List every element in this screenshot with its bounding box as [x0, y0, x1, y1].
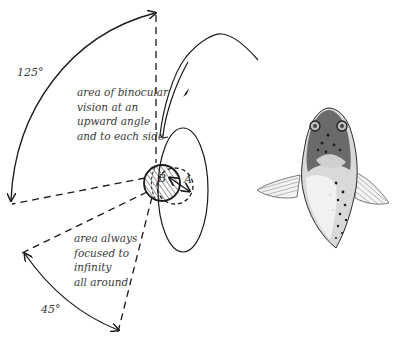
upper-left-ray — [12, 178, 145, 204]
angle-label-45: 45° — [41, 303, 61, 318]
binocular-line-4: and to each side — [77, 129, 168, 144]
angle-label-125: 125° — [17, 66, 44, 81]
binocular-line-3: upward angle — [77, 114, 168, 129]
binocular-region-label: area of binocular vision at an upward an… — [77, 85, 168, 143]
left-pectoral-fin — [257, 175, 300, 198]
infinity-line-3: infinity — [74, 260, 137, 275]
eye-label-b: B — [158, 172, 166, 187]
infinity-line-4: all around — [74, 275, 137, 290]
infinity-line-1: area always — [74, 231, 137, 246]
fish-fin-mark — [183, 88, 189, 97]
binocular-line-1: area of binocular — [77, 85, 168, 100]
infinity-line-2: focused to — [74, 246, 137, 261]
fish-illustration — [257, 108, 389, 248]
infinity-region-label: area always focused to infinity all arou… — [74, 231, 137, 289]
binocular-line-2: vision at an — [77, 100, 168, 115]
fish-head-outline — [160, 34, 258, 138]
fish-vision-diagram: 125° 45° area of binocular vision at an … — [0, 0, 398, 340]
eye-label-a: A — [184, 173, 192, 188]
diagram-lines — [0, 0, 398, 340]
